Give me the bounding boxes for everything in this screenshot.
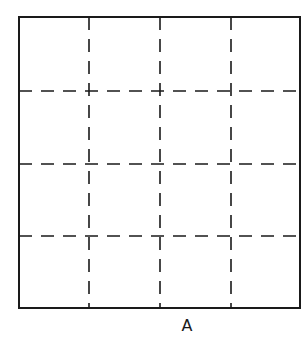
grid-diagram xyxy=(0,0,305,342)
vertical-dashed-lines xyxy=(89,17,231,308)
figure-label: A xyxy=(176,316,198,335)
